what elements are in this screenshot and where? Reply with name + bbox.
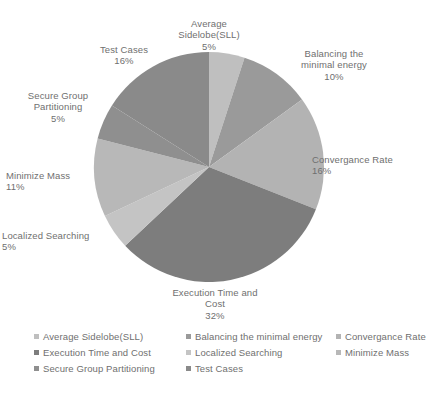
- legend-row: Average Sidelobe(SLL)Balancing the minim…: [34, 331, 416, 347]
- legend-item[interactable]: Test Cases: [186, 363, 336, 374]
- legend-item-label: Test Cases: [195, 363, 243, 374]
- legend-swatch-icon: [34, 334, 39, 339]
- legend-item-label: Execution Time and Cost: [43, 347, 151, 358]
- slice-label-name: Secure Group Partitioning: [28, 90, 88, 113]
- legend-swatch-icon: [186, 350, 191, 355]
- legend-item-label: Convergance Rate: [345, 331, 426, 342]
- slice-label-name: Balancing the minimal energy: [301, 48, 367, 71]
- slice-label-secure-group-partitioning: Secure Group Partitioning 5%: [6, 78, 110, 136]
- legend-item-label: Localized Searching: [195, 347, 282, 358]
- legend-swatch-icon: [186, 334, 191, 339]
- slice-label-pct: 11%: [6, 181, 108, 193]
- slice-label-pct: 16%: [312, 165, 420, 177]
- slice-label-pct: 5%: [2, 241, 110, 253]
- pie-plot-area: Average Sidelobe(SLL) 5% Balancing the m…: [0, 0, 420, 320]
- legend-item-label: Minimize Mass: [345, 347, 409, 358]
- legend-swatch-icon: [34, 350, 39, 355]
- legend-item[interactable]: Convergance Rate: [336, 331, 416, 342]
- legend-item[interactable]: Localized Searching: [186, 347, 336, 358]
- slice-label-convergance-rate: Convergance Rate 16%: [312, 142, 420, 188]
- legend-row: Secure Group PartitioningTest Cases: [34, 363, 416, 379]
- slice-label-pct: 5%: [6, 113, 110, 125]
- slice-label-pct: 10%: [274, 71, 394, 83]
- slice-label-execution-time-and-cost: Execution Time and Cost 32%: [152, 275, 278, 333]
- slice-label-name: Average Sidelobe(SLL): [178, 18, 240, 41]
- slice-label-pct: 16%: [78, 55, 170, 67]
- slice-label-name: Convergance Rate: [312, 154, 393, 165]
- slice-label-test-cases: Test Cases 16%: [78, 32, 170, 78]
- legend-row: Execution Time and CostLocalized Searchi…: [34, 347, 416, 363]
- slice-label-name: Execution Time and Cost: [172, 287, 257, 310]
- slice-label-pct: 32%: [152, 310, 278, 322]
- legend-item[interactable]: Execution Time and Cost: [34, 347, 186, 358]
- legend-item[interactable]: Minimize Mass: [336, 347, 416, 358]
- legend-item-label: Balancing the minimal energy: [195, 331, 322, 342]
- legend-item-label: Average Sidelobe(SLL): [43, 331, 143, 342]
- legend-swatch-icon: [336, 350, 341, 355]
- slice-label-name: Test Cases: [100, 44, 148, 55]
- legend-item[interactable]: Secure Group Partitioning: [34, 363, 186, 374]
- slice-label-balancing-the-minimal-energy: Balancing the minimal energy 10%: [274, 36, 394, 94]
- slice-label-localized-searching: Localized Searching 5%: [2, 218, 110, 264]
- chart-legend: Average Sidelobe(SLL)Balancing the minim…: [34, 331, 416, 379]
- legend-item[interactable]: Balancing the minimal energy: [186, 331, 336, 342]
- slice-label-name: Localized Searching: [2, 230, 89, 241]
- legend-swatch-icon: [336, 334, 341, 339]
- slice-label-minimize-mass: Minimize Mass 11%: [6, 158, 108, 204]
- legend-swatch-icon: [186, 366, 191, 371]
- legend-item-label: Secure Group Partitioning: [43, 363, 155, 374]
- legend-item[interactable]: Average Sidelobe(SLL): [34, 331, 186, 342]
- legend-swatch-icon: [34, 366, 39, 371]
- slice-label-name: Minimize Mass: [6, 170, 70, 181]
